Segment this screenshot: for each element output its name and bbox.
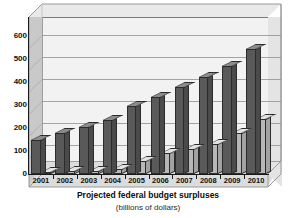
bar-2009-total-projected-surplus [222, 66, 232, 174]
bar-front-face [222, 66, 232, 174]
chart-title: Projected federal budget surpluses [0, 190, 296, 200]
bar-side-face [184, 84, 189, 174]
y-axis-labels: 6005004003002001000 [0, 0, 27, 218]
y-axis-line [28, 17, 29, 175]
bar-front-face [151, 97, 161, 174]
bar-front-face [199, 77, 209, 174]
bar-side-face [41, 137, 46, 174]
bar-2010-total-projected-surplus [246, 49, 256, 174]
chart-bars [0, 0, 296, 218]
chart-subtitle: (billions of dollars) [0, 203, 296, 213]
bar-side-face [266, 116, 271, 174]
y-axis-tick-300: 300 [1, 101, 27, 109]
bar-2001-total-projected-surplus [31, 140, 41, 175]
bar-front-face [246, 49, 256, 174]
bar-side-face [256, 46, 261, 174]
bar-side-face [208, 75, 213, 174]
bar-side-face [112, 117, 117, 173]
bar-side-face [65, 130, 70, 174]
chart-container: 6005004003002001000 20012002200320042005… [0, 0, 296, 218]
y-axis-tick-600: 600 [1, 32, 27, 40]
x-axis-tick-2010: 2010 [241, 176, 271, 185]
y-axis-tick-100: 100 [1, 147, 27, 155]
bar-2006-total-projected-surplus [151, 97, 161, 174]
bar-front-face [31, 140, 41, 175]
y-axis-tick-500: 500 [1, 55, 27, 63]
bar-side-face [194, 146, 199, 174]
bar-side-face [232, 63, 237, 174]
bar-side-face [218, 142, 223, 174]
y-axis-tick-400: 400 [1, 78, 27, 86]
bar-2007-total-projected-surplus [175, 87, 185, 174]
bar-side-face [89, 124, 94, 174]
bar-side-face [136, 104, 141, 174]
bar-side-face [242, 130, 247, 174]
y-axis-tick-0: 0 [1, 170, 27, 178]
bar-side-face [170, 151, 175, 174]
bar-front-face [175, 87, 185, 174]
y-axis-tick-200: 200 [1, 124, 27, 132]
bar-2008-total-projected-surplus [199, 77, 209, 174]
bar-side-face [160, 94, 165, 173]
